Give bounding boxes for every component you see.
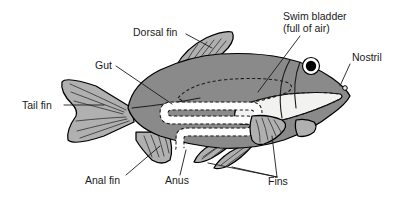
label-swim-bladder-detail: (full of air) [283, 22, 330, 34]
label-gut: Gut [95, 59, 112, 71]
fish-illustration [62, 32, 350, 169]
nostril-mark [343, 86, 348, 91]
leader-anus [180, 150, 186, 175]
label-fins: Fins [268, 175, 288, 187]
label-nostril: Nostril [352, 51, 382, 63]
eye-pupil [306, 61, 316, 71]
label-anus: Anus [165, 174, 189, 186]
tail-fin-shape [62, 80, 134, 143]
label-swim-bladder: Swim bladder [283, 10, 347, 22]
fish-diagram-canvas: Dorsal fin Gut Tail fin Swim bladder (fu… [0, 0, 393, 206]
gill-fin-shape [295, 119, 316, 136]
label-dorsal-fin: Dorsal fin [133, 26, 178, 38]
fish-anatomy-figure: Dorsal fin Gut Tail fin Swim bladder (fu… [0, 0, 393, 206]
label-tail-fin: Tail fin [22, 99, 52, 111]
leader-nostril [340, 64, 350, 86]
label-anal-fin: Anal fin [85, 174, 120, 186]
